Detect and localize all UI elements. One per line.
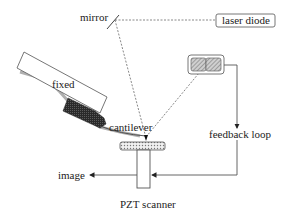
afm-diagram: mirror laser diode feedback loop image f… [0, 0, 290, 219]
photodetector [188, 55, 224, 74]
sample-surface [120, 142, 165, 150]
fixed-label: fixed [52, 78, 75, 90]
mirror-label: mirror [80, 11, 108, 23]
detector-to-feedback-line [224, 65, 237, 128]
pzt-scanner-label: PZT scanner [120, 198, 176, 210]
photodetector-cell-left [191, 58, 206, 71]
pzt-scanner [137, 150, 150, 188]
feedback-loop-label: feedback loop [209, 128, 271, 140]
image-label: image [58, 169, 85, 181]
laser-diode-label: laser diode [222, 14, 270, 26]
cantilever-tip [144, 135, 148, 141]
cantilever-label: cantilever [109, 121, 153, 133]
feedback-wiring [90, 65, 237, 175]
beam-tip-to-detector [146, 73, 199, 137]
photodetector-cell-right [206, 58, 221, 71]
